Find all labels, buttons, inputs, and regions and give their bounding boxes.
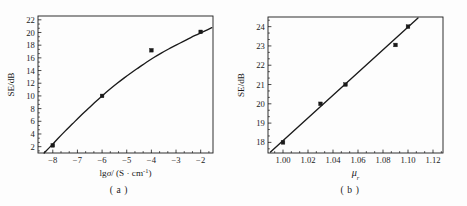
x-tick-label: 1.06 [350, 155, 366, 165]
y-tick-label: 18 [26, 40, 35, 50]
y-tick-label: 6 [31, 116, 36, 126]
figure-root: −8−7−6−5−4−3−2246810121416182022SE/dBlgσ… [0, 0, 467, 206]
y-tick-label: 4 [31, 129, 36, 139]
chart-panel-a: −8−7−6−5−4−3−2246810121416182022SE/dBlgσ… [0, 0, 234, 206]
y-tick-label: 2 [31, 142, 35, 152]
x-tick-label: −2 [196, 155, 205, 165]
x-tick-label: 1.10 [400, 155, 415, 165]
x-axis-title: μr [351, 167, 360, 181]
y-tick-label: 18 [256, 137, 265, 147]
y-tick-label: 22 [256, 60, 265, 70]
x-axis-title: lgσ/ (S · cm-1) [100, 167, 152, 179]
y-tick-label: 14 [26, 66, 35, 76]
x-tick-label: 1.00 [275, 155, 290, 165]
y-tick-label: 16 [26, 53, 35, 63]
x-tick-label: −6 [98, 155, 108, 165]
x-tick-label: 1.02 [300, 155, 315, 165]
y-tick-label: 22 [26, 15, 35, 25]
chart-panel-b: 1.001.021.041.061.081.101.12181920212223… [233, 0, 467, 206]
y-axis-title: SE/dB [6, 73, 16, 97]
x-tick-label: −8 [48, 155, 57, 165]
series-line [271, 18, 419, 152]
series-line [44, 28, 212, 153]
y-tick-label: 20 [256, 99, 265, 109]
x-tick-label: −5 [122, 155, 131, 165]
x-tick-label: 1.04 [325, 155, 341, 165]
y-tick-label: 21 [256, 80, 265, 90]
y-tick-label: 20 [26, 28, 35, 38]
chart-a-plot: −8−7−6−5−4−3−2246810121416182022SE/dBlgσ… [0, 0, 234, 182]
x-tick-label: −3 [171, 155, 180, 165]
chart-b-plot: 1.001.021.041.061.081.101.12181920212223… [233, 0, 467, 182]
y-tick-label: 19 [256, 118, 265, 128]
y-tick-label: 10 [26, 91, 35, 101]
y-tick-label: 8 [31, 104, 35, 114]
y-axis-title: SE/dB [236, 73, 246, 97]
panel-a-caption: ( a ) [2, 185, 236, 195]
plot-frame [268, 17, 443, 153]
x-tick-label: −7 [73, 155, 83, 165]
y-tick-label: 12 [26, 78, 35, 88]
x-tick-label: 1.12 [425, 155, 440, 165]
panel-b-caption: ( b ) [233, 185, 467, 195]
data-point-marker [394, 43, 398, 47]
data-point-marker [150, 48, 154, 52]
y-tick-label: 24 [256, 22, 265, 32]
y-tick-label: 23 [256, 41, 265, 51]
x-tick-label: 1.08 [375, 155, 390, 165]
x-tick-label: −4 [147, 155, 157, 165]
